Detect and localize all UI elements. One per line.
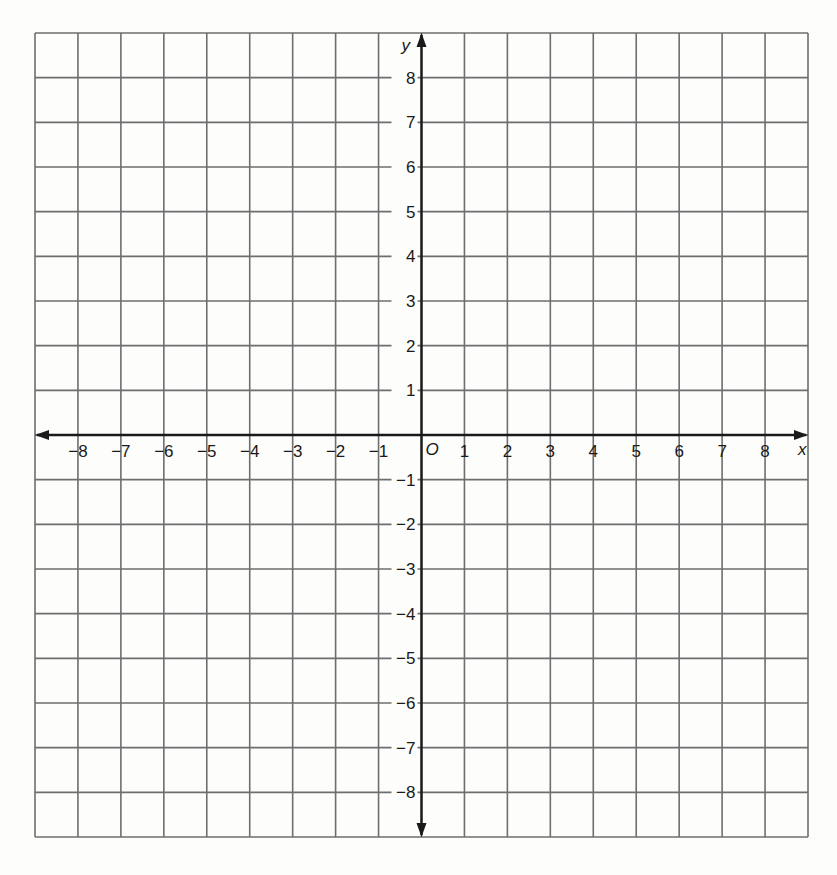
y-axis-arrow-down-icon — [417, 823, 427, 837]
x-tick-label: −5 — [197, 442, 216, 461]
y-tick-label: 3 — [406, 292, 415, 311]
coordinate-plane: −8−7−6−5−4−3−2−112345678−8−7−6−5−4−3−2−1… — [0, 0, 837, 875]
y-tick-label: 1 — [406, 381, 415, 400]
x-tick-label: 3 — [546, 442, 555, 461]
y-axis-label: y — [401, 36, 412, 55]
axes — [35, 33, 808, 837]
y-tick-label: 5 — [406, 203, 415, 222]
y-tick-label: −8 — [396, 783, 415, 802]
y-tick-label: −5 — [396, 649, 415, 668]
x-tick-label: −1 — [369, 442, 388, 461]
y-tick-label: 8 — [406, 69, 415, 88]
y-tick-label: −6 — [396, 694, 415, 713]
x-tick-label: 4 — [589, 442, 598, 461]
x-axis-arrow-right-icon — [794, 430, 808, 440]
x-tick-label: −4 — [240, 442, 259, 461]
y-tick-label: 4 — [406, 247, 415, 266]
x-tick-label: −2 — [326, 442, 345, 461]
y-tick-label: 7 — [406, 113, 415, 132]
y-tick-label: 2 — [406, 337, 415, 356]
x-tick-label: 5 — [631, 442, 640, 461]
x-axis-label: x — [797, 440, 807, 459]
x-tick-label: 1 — [460, 442, 469, 461]
x-tick-label: −6 — [154, 442, 173, 461]
x-tick-label: 8 — [760, 442, 769, 461]
x-tick-label: −7 — [111, 442, 130, 461]
x-tick-label: 2 — [503, 442, 512, 461]
x-tick-label: −3 — [283, 442, 302, 461]
origin-label: O — [426, 440, 439, 459]
x-tick-label: 7 — [717, 442, 726, 461]
x-axis-arrow-left-icon — [35, 430, 49, 440]
y-tick-label: 6 — [406, 158, 415, 177]
y-tick-label: −7 — [396, 739, 415, 758]
y-axis-arrow-up-icon — [417, 33, 427, 47]
coordinate-grid-figure: −8−7−6−5−4−3−2−112345678−8−7−6−5−4−3−2−1… — [0, 0, 837, 875]
y-tick-label: −1 — [396, 471, 415, 490]
y-tick-label: −3 — [396, 560, 415, 579]
y-tick-label: −2 — [396, 515, 415, 534]
x-tick-label: 6 — [674, 442, 683, 461]
x-tick-label: −8 — [68, 442, 87, 461]
y-tick-label: −4 — [396, 605, 415, 624]
